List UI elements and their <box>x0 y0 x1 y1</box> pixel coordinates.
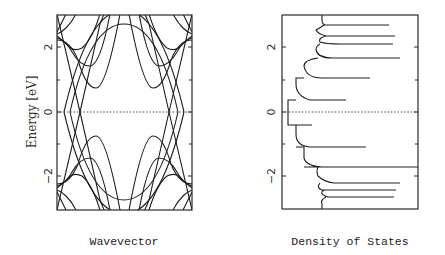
y-axis-label: Energy [eV] <box>25 76 39 149</box>
ytick-label-2: 2 <box>42 44 55 51</box>
dos-ytick-label-0: 0 <box>265 109 278 116</box>
x-axis-label-wavevector: Wavevector <box>89 235 158 248</box>
band-plot-frame <box>57 15 192 210</box>
dos-panel: 2 0 −2 Density of States <box>265 15 418 248</box>
dos-ytick-label-neg2: −2 <box>265 168 278 184</box>
figure: 2 0 −2 Energy [eV] Wavevector 2 0 −2 Den… <box>0 0 445 255</box>
ytick-label-neg2: −2 <box>42 168 55 184</box>
band-curves <box>57 0 192 232</box>
dos-ytick-label-2: 2 <box>265 44 278 51</box>
dos-curve <box>288 15 418 210</box>
x-axis-label-dos: Density of States <box>291 235 408 248</box>
ytick-label-0: 0 <box>42 109 55 116</box>
band-structure-panel: 2 0 −2 Energy [eV] Wavevector <box>25 0 192 248</box>
